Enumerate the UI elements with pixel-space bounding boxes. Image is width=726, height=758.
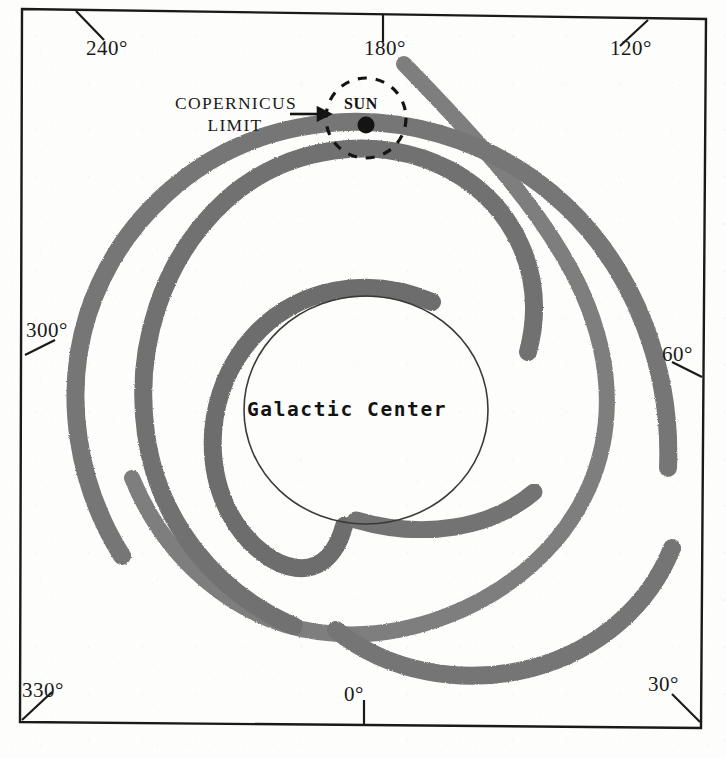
longitude-label-240: 240° <box>86 36 128 61</box>
longitude-label-180: 180° <box>364 36 406 61</box>
galactic-center-label: Galactic Center <box>247 398 447 421</box>
sun-label: SUN <box>344 95 378 113</box>
longitude-label-60: 60° <box>662 342 693 367</box>
tick-30 <box>672 694 700 722</box>
longitude-label-300: 300° <box>26 318 68 343</box>
longitude-label-120: 120° <box>610 36 652 61</box>
sun-marker <box>358 117 375 134</box>
copernicus-limit-label: COPERNICUS LIMIT <box>175 93 295 137</box>
longitude-label-330: 330° <box>22 678 64 703</box>
spiral-arm-5-lower-right <box>336 548 672 676</box>
copernicus-limit-line-1: COPERNICUS <box>175 93 295 115</box>
galaxy-spiral-arm-diagram <box>0 0 726 758</box>
longitude-label-0: 0° <box>344 682 364 707</box>
longitude-label-30: 30° <box>648 672 679 697</box>
copernicus-limit-line-2: LIMIT <box>175 115 295 137</box>
